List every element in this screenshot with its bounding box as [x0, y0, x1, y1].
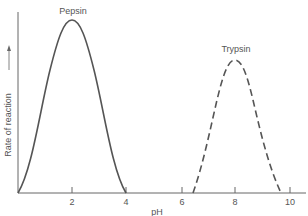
tick-label: 2 — [69, 197, 74, 207]
tick-label: 4 — [123, 197, 128, 207]
pepsin-curve — [18, 20, 126, 193]
pepsin-label: Pepsin — [59, 6, 87, 16]
trypsin-curve — [193, 60, 281, 193]
tick-label: 6 — [179, 197, 184, 207]
enzyme-ph-chart: 2 4 6 8 10 pH Rate of reaction Pepsin Tr… — [0, 0, 308, 216]
x-tick-labels: 2 4 6 8 10 — [69, 197, 295, 207]
arrow-up-icon — [7, 45, 11, 70]
x-axis-label: pH — [151, 207, 163, 216]
tick-label: 8 — [232, 197, 237, 207]
trypsin-label: Trypsin — [221, 44, 250, 54]
tick-label: 10 — [285, 197, 295, 207]
x-ticks — [72, 187, 290, 193]
y-axis-label: Rate of reaction — [3, 93, 13, 157]
